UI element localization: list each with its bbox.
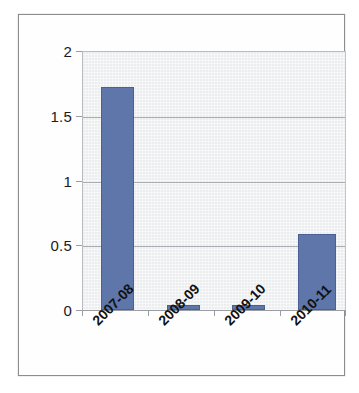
- x-axis-tick-mark-0: [82, 310, 83, 316]
- y-axis-tick-label-1: 1: [63, 172, 72, 189]
- x-axis-tick-mark-3: [280, 310, 281, 316]
- y-axis-line: [82, 51, 83, 311]
- plot-area: [82, 51, 346, 310]
- y-axis-label-wrap-0: 0: [37, 310, 72, 311]
- figure-frame: 2 1.5 1 0.5 0: [18, 14, 345, 376]
- y-axis-label-wrap-2: 2: [37, 51, 72, 52]
- y-axis-tick-label-0: 0: [63, 302, 72, 319]
- x-axis-tick-mark-1: [148, 310, 149, 316]
- y-axis-label-wrap-1: 1: [37, 181, 72, 182]
- y-axis-tick-label-1-5: 1.5: [51, 107, 72, 124]
- chart-screenshot: 2 1.5 1 0.5 0: [0, 0, 359, 393]
- y-axis-label-wrap-0-5: 0.5: [37, 245, 72, 246]
- x-axis-tick-mark-2: [214, 310, 215, 316]
- x-axis-tick-mark-4: [345, 310, 346, 316]
- bar-2007-08[interactable]: [101, 87, 134, 310]
- y-axis-tick-label-0-5: 0.5: [51, 237, 72, 254]
- y-axis-tick-label-2: 2: [63, 43, 72, 60]
- y-axis-label-wrap-1-5: 1.5: [37, 116, 72, 117]
